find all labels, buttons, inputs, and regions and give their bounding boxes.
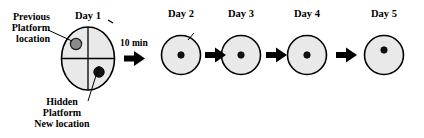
arrow-day1-to-day2 bbox=[124, 51, 145, 66]
hidden-platform-marker-day-4 bbox=[304, 52, 310, 58]
pool-circle-day-5 bbox=[365, 36, 404, 75]
hidden-platform-marker bbox=[94, 67, 104, 77]
hidden-platform-marker-day-2 bbox=[178, 52, 184, 58]
hidden-platform-callout-line-2: Platform bbox=[18, 107, 106, 118]
arrow-day3-to-day4 bbox=[266, 48, 287, 63]
pool-day-4 bbox=[288, 36, 327, 75]
previous-platform-callout-line-3: location bbox=[0, 33, 50, 44]
previous-platform-callout: Previous Platform location bbox=[0, 11, 50, 45]
interval-label: 10 min bbox=[120, 38, 148, 49]
hidden-platform-marker-day-3 bbox=[238, 52, 244, 58]
hidden-platform-callout-line-1: Hidden bbox=[18, 96, 106, 107]
day-label-1: Day 1 bbox=[66, 10, 110, 22]
leader-line-previous-platform bbox=[48, 30, 72, 41]
pool-day-1 bbox=[62, 27, 115, 90]
hidden-platform-callout: Hidden Platform New location bbox=[18, 96, 106, 130]
pool-day-2 bbox=[162, 33, 201, 75]
morris-water-maze-diagram: Day 1 Day 2 Day 3 Day 4 Day 5 Previous P… bbox=[0, 0, 424, 138]
pool-day-3 bbox=[222, 36, 261, 75]
hidden-platform-marker-day-5 bbox=[381, 47, 387, 53]
day-label-3: Day 3 bbox=[219, 8, 263, 20]
previous-platform-callout-line-1: Previous bbox=[0, 11, 50, 22]
day-label-2: Day 2 bbox=[159, 8, 203, 20]
pool-day-5 bbox=[365, 36, 404, 75]
hidden-platform-callout-line-3: New location bbox=[18, 118, 106, 129]
day-label-4: Day 4 bbox=[285, 8, 329, 20]
previous-platform-callout-line-2: Platform bbox=[0, 22, 50, 33]
previous-platform-marker bbox=[70, 38, 81, 49]
day-label-5: Day 5 bbox=[362, 8, 406, 20]
arrow-day4-to-day5 bbox=[336, 48, 357, 63]
